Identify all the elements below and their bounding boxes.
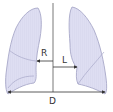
lung-diagram: R L D (0, 0, 113, 112)
r-label: R (41, 48, 47, 58)
l-label: L (62, 55, 67, 65)
left-lung (69, 7, 107, 94)
right-lung (6, 8, 42, 94)
d-label: D (49, 96, 56, 106)
